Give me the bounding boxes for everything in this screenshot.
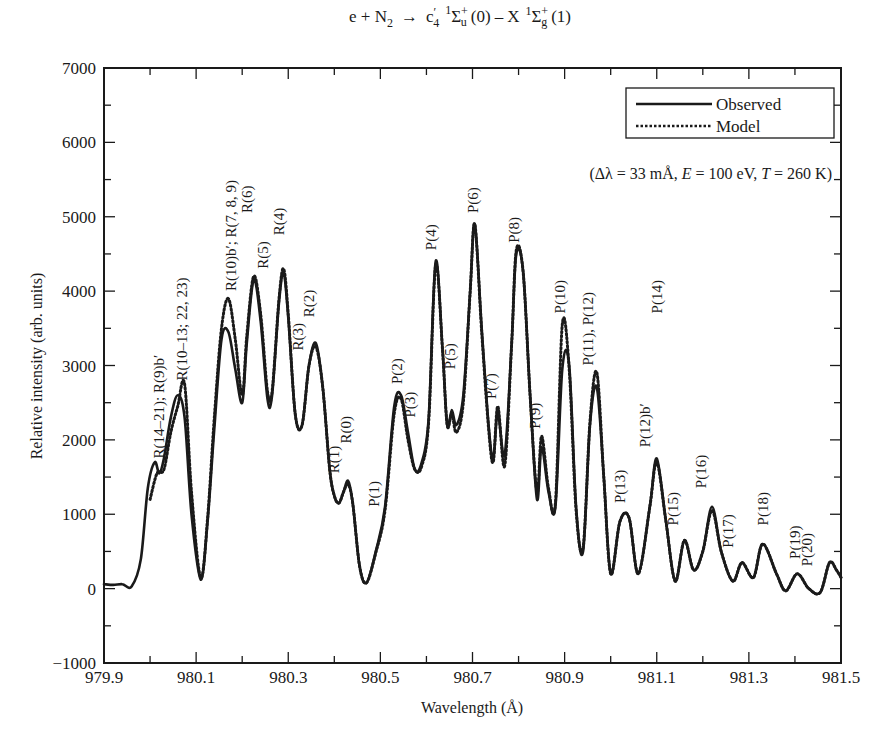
y-tick-label: 6000 — [62, 133, 96, 152]
chart-title: e + N2→c′41Σ+u(0)–X1Σ+g(1) — [349, 3, 571, 30]
peak-label: R(0) — [338, 416, 355, 444]
y-tick-label: 7000 — [62, 59, 96, 78]
peak-label: P(1) — [366, 481, 383, 507]
plot-frame — [104, 68, 841, 663]
y-axis-label: Relative intensity (arb. units) — [28, 273, 46, 460]
peak-label: R(10)b′; R(7, 8, 9) — [223, 180, 240, 291]
y-tick-label: 0 — [88, 580, 97, 599]
x-tick-label: 980.5 — [361, 668, 399, 687]
peak-label: R(6) — [239, 186, 256, 214]
peak-label: P(2) — [389, 358, 406, 384]
peak-label: P(15) — [665, 492, 682, 525]
peak-label: R(5) — [255, 241, 272, 269]
x-tick-label: 981.1 — [638, 668, 676, 687]
peak-label: P(17) — [720, 514, 737, 547]
y-tick-label: 4000 — [62, 282, 96, 301]
y-tick-label: 1000 — [62, 505, 96, 524]
y-tick-label: 2000 — [62, 431, 96, 450]
peak-label: P(16) — [693, 455, 710, 488]
peak-label: R(2) — [301, 290, 318, 318]
x-tick-label: 980.9 — [546, 668, 584, 687]
x-tick-label: 981.5 — [822, 668, 860, 687]
peak-label: P(7) — [483, 373, 500, 399]
peak-label: P(18) — [755, 492, 772, 525]
peak-label: P(10) — [552, 280, 569, 313]
y-tick-label: 5000 — [62, 208, 96, 227]
peak-label: R(3) — [290, 323, 307, 351]
x-tick-label: 980.1 — [177, 668, 215, 687]
peak-label: P(9) — [527, 403, 544, 429]
peak-label: R(14–21); R(9)b′ — [151, 355, 168, 459]
peak-label: P(20) — [799, 533, 816, 566]
peak-label: P(6) — [465, 187, 482, 213]
spectrum-chart: e + N2→c′41Σ+u(0)–X1Σ+g(1) −100001000200… — [0, 0, 879, 745]
legend-observed-label: Observed — [716, 95, 782, 114]
x-tick-label: 979.9 — [85, 668, 123, 687]
peak-label: P(13) — [612, 470, 629, 503]
x-axis-label: Wavelength (Å) — [421, 699, 523, 717]
x-tick-label: 981.3 — [730, 668, 768, 687]
conditions-annotation: (Δλ = 33 mÅ, E = 100 eV, T = 260 K) — [589, 165, 832, 183]
legend-model-label: Model — [716, 117, 761, 136]
x-tick-label: 980.7 — [453, 668, 492, 687]
peak-label: P(5) — [442, 343, 459, 369]
peak-label: R(1) — [326, 446, 343, 474]
peak-label: P(4) — [423, 224, 440, 250]
peak-label: P(12)b′ — [637, 403, 654, 447]
peak-label: P(3) — [402, 392, 419, 418]
legend: Observed Model — [626, 88, 834, 138]
x-tick-label: 980.3 — [269, 668, 307, 687]
y-tick-label: 3000 — [62, 357, 96, 376]
x-axis: 979.9980.1980.3980.5980.7980.9981.1981.3… — [85, 68, 860, 687]
peak-label: R(4) — [271, 208, 288, 236]
peak-label: R(10–13; 22, 23) — [174, 277, 191, 380]
peak-label: P(8) — [506, 217, 523, 243]
peak-label: P(14) — [649, 280, 666, 313]
peak-label: P(11), P(12) — [580, 292, 597, 366]
